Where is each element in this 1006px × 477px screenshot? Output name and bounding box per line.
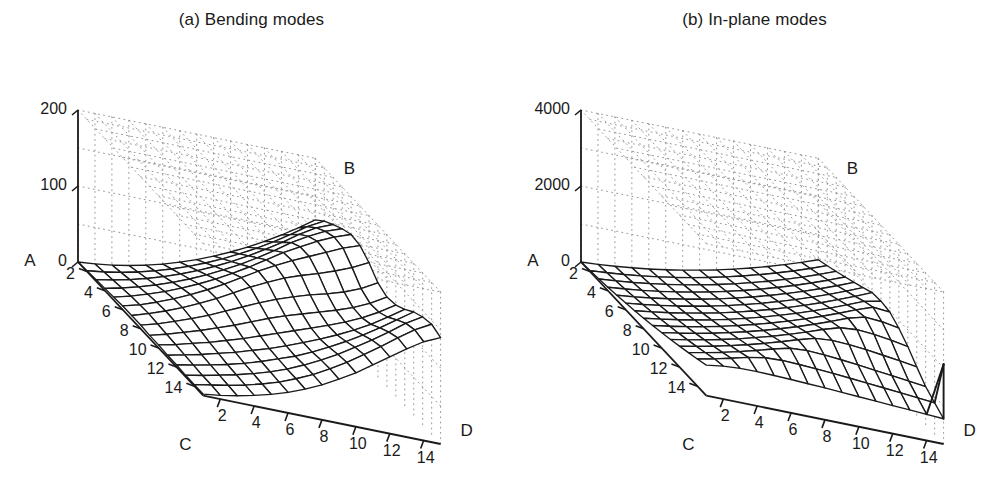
y-tick-label: 8 bbox=[822, 428, 831, 445]
x-tick-label: 8 bbox=[120, 322, 129, 339]
y-tick-label: 6 bbox=[789, 421, 798, 438]
z-axis-ticks: 0100200 bbox=[40, 100, 78, 269]
x-tick-label: 6 bbox=[102, 303, 111, 320]
x-tick-label: 12 bbox=[650, 360, 668, 377]
corner-label-a: A bbox=[24, 251, 36, 270]
y-tick-label: 12 bbox=[886, 442, 904, 459]
x-tick-label: 14 bbox=[165, 379, 183, 396]
y-axis-ticks: 2468101214 bbox=[217, 399, 434, 465]
corner-label-d: D bbox=[963, 421, 975, 440]
panel-a: (a) Bending modes 0100200246810121424681… bbox=[0, 0, 503, 477]
z-tick-label: 2000 bbox=[534, 176, 570, 193]
y-tick-label: 2 bbox=[721, 407, 730, 424]
x-tick-label: 4 bbox=[84, 284, 93, 301]
z-tick-label: 100 bbox=[40, 176, 67, 193]
x-tick-label: 8 bbox=[623, 322, 632, 339]
panel-a-plot: 010020024681012142468101214ABCD bbox=[0, 0, 503, 477]
y-tick-label: 8 bbox=[319, 428, 328, 445]
x-tick-label: 12 bbox=[147, 360, 165, 377]
y-tick-label: 2 bbox=[218, 407, 227, 424]
corner-label-b: B bbox=[847, 159, 858, 178]
x-tick-label: 6 bbox=[605, 303, 614, 320]
panel-b: (b) In-plane modes 020004000246810121424… bbox=[503, 0, 1006, 477]
corner-label-c: C bbox=[682, 435, 694, 454]
corner-label-a: A bbox=[527, 251, 539, 270]
y-tick-label: 12 bbox=[383, 442, 401, 459]
y-tick-label: 4 bbox=[252, 414, 261, 431]
x-tick-label: 4 bbox=[587, 284, 596, 301]
corner-label-c: C bbox=[179, 435, 191, 454]
y-tick-label: 10 bbox=[852, 435, 870, 452]
z-axis-ticks: 020004000 bbox=[534, 100, 581, 269]
y-tick-label: 4 bbox=[755, 414, 764, 431]
y-tick-label: 14 bbox=[920, 449, 938, 466]
y-tick-label: 14 bbox=[417, 449, 435, 466]
surface-mesh bbox=[581, 260, 944, 419]
x-tick-label: 10 bbox=[129, 341, 147, 358]
z-tick-label: 4000 bbox=[534, 100, 570, 117]
corner-label-d: D bbox=[460, 421, 472, 440]
y-tick-label: 6 bbox=[286, 421, 295, 438]
x-tick-label: 2 bbox=[66, 265, 75, 282]
figure-root: (a) Bending modes 0100200246810121424681… bbox=[0, 0, 1006, 477]
z-tick-label: 200 bbox=[40, 100, 67, 117]
x-tick-label: 2 bbox=[569, 265, 578, 282]
corner-label-b: B bbox=[344, 159, 355, 178]
surface-mesh bbox=[78, 220, 441, 396]
x-tick-label: 10 bbox=[632, 341, 650, 358]
panel-b-plot: 02000400024681012142468101214ABCD bbox=[503, 0, 1006, 477]
x-tick-label: 14 bbox=[668, 379, 686, 396]
y-tick-label: 10 bbox=[349, 435, 367, 452]
